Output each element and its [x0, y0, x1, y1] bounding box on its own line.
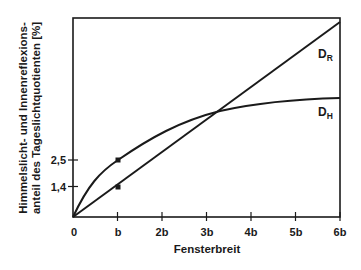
- d-h-marker-point: [116, 158, 121, 163]
- series-d-r-line: [73, 22, 340, 217]
- series-label-d-h: DH: [318, 105, 333, 121]
- x-tick-label: 0: [71, 226, 77, 238]
- y-axis-label-line-2: anteil des Tageslichtquotienten [%]: [30, 22, 42, 214]
- x-tick-label: 4b: [245, 226, 258, 238]
- d-r-marker-point: [116, 185, 121, 190]
- x-axis-label: Fensterbreit: [174, 243, 241, 255]
- x-tick-label: b: [115, 226, 122, 238]
- chart-canvas: 0 b 2b 3b 4b 5b 6b Fensterbreit 2,5 1,4 …: [0, 0, 361, 270]
- x-tick-label: 3b: [201, 226, 214, 238]
- series-d-h-line: [73, 98, 340, 217]
- x-tick-label: 2b: [156, 226, 169, 238]
- x-axis-tick-labels: 0 b 2b 3b 4b 5b 6b: [71, 226, 347, 238]
- y-axis-label-line-1: Himmelslicht- und Innenreflexions-: [17, 22, 29, 214]
- x-tick-label: 6b: [334, 226, 347, 238]
- y-tick-label: 2,5: [51, 154, 66, 166]
- y-tick-label: 1,4: [51, 181, 67, 193]
- x-tick-label: 5b: [290, 226, 303, 238]
- y-axis-label: Himmelslicht- und Innenreflexions- antei…: [17, 22, 42, 214]
- series-label-d-r: DR: [318, 47, 333, 63]
